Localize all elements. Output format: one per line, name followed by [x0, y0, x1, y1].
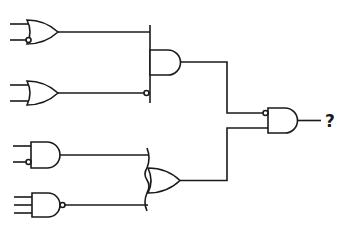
- logic-circuit-diagram: ?: [0, 0, 349, 227]
- and-gate-5: [144, 25, 181, 103]
- output-label: ?: [325, 111, 335, 131]
- or-gate-body: [148, 168, 180, 193]
- input-bar: [145, 148, 149, 211]
- and-gate-body: [150, 50, 181, 75]
- and-gate-7: [263, 108, 298, 133]
- and-gate-body: [31, 142, 60, 168]
- nand-gate-4: [14, 193, 65, 217]
- and-gate-3: [13, 142, 60, 168]
- and-gate-body: [32, 193, 60, 217]
- and-gate-body: [268, 108, 298, 133]
- inversion-bubble: [26, 160, 31, 165]
- or-gate-2: [10, 81, 58, 105]
- inversion-bubble: [144, 91, 149, 96]
- or-gate-6: [145, 148, 180, 211]
- or-gate-1: [10, 20, 58, 44]
- inversion-bubble: [263, 111, 268, 116]
- or-gate-body: [27, 81, 58, 105]
- inversion-bubble: [26, 38, 31, 43]
- wire: [181, 62, 265, 113]
- inversion-bubble: [60, 203, 65, 208]
- wire: [180, 128, 268, 181]
